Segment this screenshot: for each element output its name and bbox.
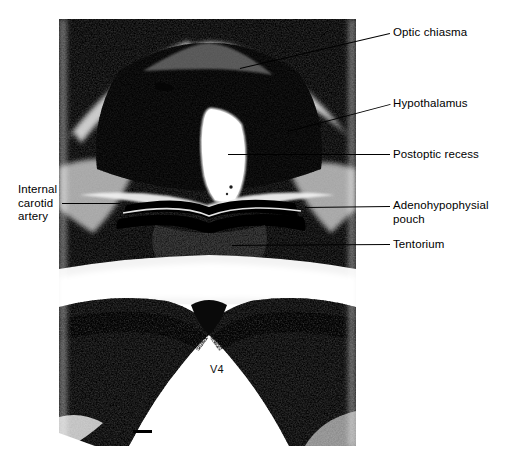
annotation-label-adenohypophysial-pouch: Adenohypophysial pouch	[393, 199, 489, 226]
annotation-label-postoptic-recess: Postoptic recess	[393, 148, 479, 162]
annotation-label-internal-carotid-artery: Internal carotid artery	[18, 183, 57, 224]
leader-line-postoptic-recess	[228, 154, 390, 155]
micrograph-plate	[59, 19, 356, 446]
micrograph-image	[59, 19, 356, 446]
annotation-label-hypothalamus: Hypothalamus	[393, 97, 468, 111]
annotation-label-optic-chiasma: Optic chiasma	[393, 26, 467, 40]
annotation-label-tentorium: Tentorium	[393, 238, 444, 252]
scale-bar	[133, 430, 152, 433]
figure-container: V4 Optic chiasma Hypothalamus Postoptic …	[0, 0, 517, 462]
ventricle-v4-label: V4	[210, 363, 224, 375]
leader-line-internal-carotid-artery	[62, 203, 120, 204]
